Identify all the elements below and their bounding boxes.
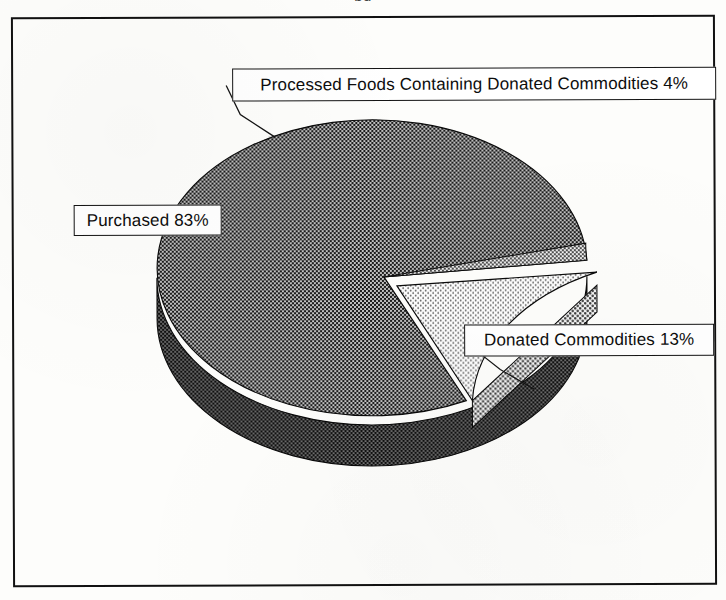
callout-purchased[interactable]: Purchased 83% [74, 205, 222, 237]
callout-processed-foods[interactable]: Processed Foods Containing Donated Commo… [232, 67, 716, 102]
callout-donated-commodities-text: Donated Commodities 13% [484, 330, 694, 351]
callout-processed-foods-text: Processed Foods Containing Donated Commo… [260, 73, 688, 95]
pie-chart: Processed Foods Containing Donated Commo… [13, 17, 715, 586]
pie-chart-svg [13, 17, 715, 586]
callout-donated-commodities[interactable]: Donated Commodities 13% [464, 324, 714, 357]
callout-purchased-text: Purchased 83% [87, 210, 209, 230]
scanned-page: pg [0, 0, 726, 600]
clipped-heading-text: pg [0, 0, 726, 1]
chart-frame: Processed Foods Containing Donated Commo… [11, 15, 717, 588]
